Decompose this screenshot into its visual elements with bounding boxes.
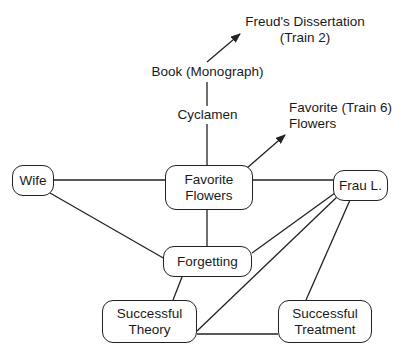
label-cyclamen: Cyclamen bbox=[170, 107, 245, 123]
label-freuds-dissertation: Freud's Dissertation (Train 2) bbox=[240, 14, 370, 46]
node-wife: Wife bbox=[12, 165, 54, 196]
node-forgetting: Forgetting bbox=[163, 246, 252, 277]
edge-frau-l-to-successful-treatment bbox=[306, 200, 350, 300]
node-successful-theory: Successful Theory bbox=[102, 300, 197, 343]
label-book-monograph: Book (Monograph) bbox=[150, 64, 265, 80]
edge-forgetting-to-successful-theory bbox=[173, 277, 182, 300]
edge-favorite-flowers-to-train6 bbox=[247, 135, 285, 168]
edge-wife-to-forgetting bbox=[50, 193, 165, 259]
node-successful-treatment: Successful Treatment bbox=[278, 300, 372, 343]
node-frau-l: Frau L. bbox=[333, 170, 388, 201]
label-favorite-train6: Favorite (Train 6) Flowers bbox=[289, 100, 401, 132]
node-favorite-flowers: Favorite Flowers bbox=[165, 165, 253, 210]
edge-frau-l-to-forgetting bbox=[252, 193, 335, 253]
edge-book-to-dissertation bbox=[207, 34, 240, 62]
